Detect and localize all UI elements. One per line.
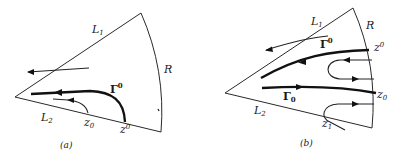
- label-Gamma-upper-a: Γ0: [110, 81, 123, 96]
- curve-Gamma-upper-b: [261, 50, 369, 78]
- label-L1-a: L1: [91, 23, 104, 37]
- ray-L2-b: [225, 93, 372, 128]
- uturn-upper-b: [328, 60, 374, 79]
- panel-a: L1 R L2 Γ0 z0 z0 (a): [15, 13, 172, 150]
- arrowhead-icon: [352, 101, 359, 107]
- label-L2-a: L2: [40, 111, 53, 125]
- label-z-upper-b: z0: [373, 41, 385, 54]
- arrowhead-icon: [54, 89, 62, 96]
- sector-diagram-figure: L1 R L2 Γ0 z0 z0 (a) L1 R Γ0 z0 Γ0: [0, 0, 397, 155]
- arrowhead-icon: [67, 98, 74, 104]
- curve-Gamma-lower-b: [262, 87, 376, 93]
- label-L1-b: L1: [310, 15, 323, 29]
- arrowhead-icon: [352, 76, 359, 82]
- tick-mark: [158, 109, 159, 111]
- label-Gamma-lower-b: Γ0: [283, 90, 296, 104]
- arrowhead-icon: [343, 57, 350, 63]
- label-Gamma-upper-b: Γ0: [320, 36, 333, 51]
- ray-L1-b: [225, 8, 353, 93]
- label-R-b: R: [365, 19, 374, 32]
- label-z-upper-a: z0: [119, 123, 131, 136]
- label-R-a: R: [163, 63, 172, 76]
- arc-R-a: [141, 13, 162, 132]
- crossing-path-b: [266, 36, 328, 50]
- label-z0-a: z0: [83, 116, 95, 130]
- label-L2-b: L2: [253, 104, 266, 118]
- arrowhead-icon: [27, 69, 34, 75]
- label-z1-b: z1: [321, 117, 332, 131]
- panel-b: L1 R Γ0 z0 Γ0 z0 L2 z1 (b): [225, 8, 388, 148]
- arrowhead-icon: [296, 84, 304, 90]
- label-z-lower-b: z0: [376, 88, 388, 102]
- arrowhead-icon: [265, 47, 273, 53]
- caption-b: (b): [300, 138, 313, 148]
- caption-a: (a): [60, 140, 73, 150]
